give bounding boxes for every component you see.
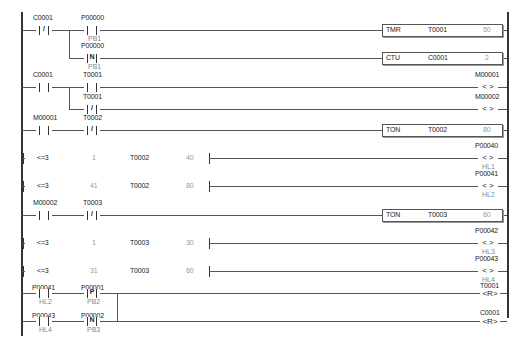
coil-label: M00001 <box>475 70 499 78</box>
contact-label: P00000 <box>81 13 104 21</box>
output-coil[interactable]: < > <box>478 181 498 190</box>
ton-instruction[interactable]: TON T0003 60 <box>382 209 503 222</box>
compare-operator: <=3 <box>37 238 48 246</box>
coil-label: P00040 <box>475 141 498 149</box>
coil-label: C0001 <box>480 308 500 316</box>
reset-coil[interactable]: <R> <box>480 317 500 326</box>
nc-contact[interactable]: / <box>84 211 100 220</box>
contact-label: T0001 <box>83 92 102 100</box>
contact-label: C0001 <box>33 13 53 21</box>
no-contact[interactable] <box>36 317 52 326</box>
coil-label: M00002 <box>475 92 499 100</box>
compare-operand-b: 30 <box>186 238 193 246</box>
coil-label: P00042 <box>475 226 498 234</box>
no-contact[interactable] <box>36 126 52 135</box>
contact-comment: HL2 <box>39 298 52 305</box>
ton-instruction[interactable]: TON T0002 80 <box>382 124 503 137</box>
compare-operator: <=3 <box>37 153 48 161</box>
output-coil[interactable]: < > <box>478 238 498 247</box>
coil-label: P00041 <box>475 169 498 177</box>
compare-operand-a: 31 <box>90 266 97 274</box>
contact-label: C0001 <box>33 70 53 78</box>
contact-label: T0003 <box>83 198 102 206</box>
compare-address: T0003 <box>130 238 149 246</box>
compare-operand-b: 40 <box>186 153 193 161</box>
no-contact[interactable] <box>36 289 52 298</box>
contact-label: P00000 <box>81 41 104 49</box>
p-contact[interactable]: P <box>84 289 100 298</box>
contact-label: T0001 <box>83 70 102 78</box>
n-contact[interactable]: N <box>84 54 100 63</box>
contact-comment: HL4 <box>39 326 52 333</box>
no-contact[interactable] <box>84 83 100 92</box>
right-power-rail <box>507 12 509 318</box>
compare-operand-b: 60 <box>186 266 193 274</box>
contact-comment: PB2 <box>87 298 100 305</box>
no-contact[interactable] <box>36 83 52 92</box>
output-coil[interactable]: < > <box>478 266 498 275</box>
compare-operand-b: 80 <box>186 181 193 189</box>
coil-label: P00043 <box>475 254 498 262</box>
contact-label: M00002 <box>33 198 57 206</box>
output-coil[interactable]: < > <box>478 104 498 113</box>
no-contact[interactable] <box>84 26 100 35</box>
compare-address: T0002 <box>130 181 149 189</box>
compare-operand-a: 1 <box>92 238 96 246</box>
coil-comment: HL2 <box>482 191 495 198</box>
output-coil[interactable]: < > <box>478 153 498 162</box>
tmr-instruction[interactable]: TMR T0001 50 <box>382 24 503 37</box>
compare-operator: <=3 <box>37 181 48 189</box>
ctu-instruction[interactable]: CTU C0001 2 <box>382 52 503 65</box>
reset-coil[interactable]: <R> <box>480 289 500 298</box>
compare-operator: <=3 <box>37 266 48 274</box>
output-coil[interactable]: < > <box>478 82 498 91</box>
nc-contact[interactable]: / <box>84 126 100 135</box>
left-power-rail <box>21 12 23 336</box>
compare-operand-a: 1 <box>92 153 96 161</box>
contact-comment: PB1 <box>88 63 101 70</box>
contact-comment: PB3 <box>87 326 100 333</box>
no-contact[interactable] <box>36 211 52 220</box>
contact-label: T0002 <box>83 113 102 121</box>
compare-address: T0003 <box>130 266 149 274</box>
contact-label: M00001 <box>33 113 57 121</box>
n-contact[interactable]: N <box>84 317 100 326</box>
compare-operand-a: 41 <box>90 181 97 189</box>
nc-contact[interactable]: / <box>36 26 52 35</box>
compare-address: T0002 <box>130 153 149 161</box>
